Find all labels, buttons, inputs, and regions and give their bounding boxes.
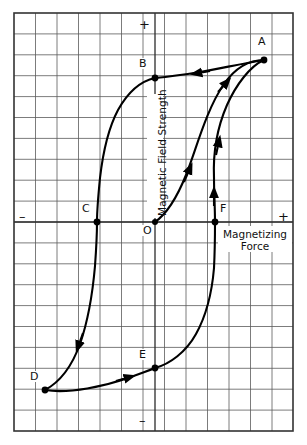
hysteresis-figure: A B C D E F O + – – + Magnetic Field Str… [0, 0, 307, 445]
point-marker-a[interactable] [261, 57, 268, 64]
point-marker-d[interactable] [42, 387, 49, 394]
point-label-e: E [138, 349, 147, 360]
origin-label: O [142, 225, 153, 236]
horizontal-axis-label-line2: Force [219, 240, 291, 252]
point-marker-e[interactable] [152, 365, 159, 372]
horizontal-axis-label: Magnetizing Force [219, 228, 291, 252]
minus-sign-left: – [19, 210, 26, 223]
point-marker-f[interactable] [212, 219, 219, 226]
plus-sign-top: + [139, 18, 150, 31]
point-label-a: A [258, 36, 266, 47]
point-label-d: D [29, 371, 39, 382]
point-marker-o[interactable] [152, 219, 158, 225]
point-marker-c[interactable] [94, 219, 101, 226]
hysteresis-plot-svg [0, 0, 307, 445]
point-label-b: B [138, 58, 148, 69]
horizontal-axis-label-line1: Magnetizing [219, 228, 291, 240]
plus-sign-right: + [278, 210, 289, 223]
vertical-axis-label: Magnetic Field Strength [157, 89, 168, 216]
point-label-c: C [81, 203, 91, 214]
point-marker-b[interactable] [152, 75, 159, 82]
point-label-f: F [219, 203, 227, 214]
minus-sign-bottom: – [139, 414, 146, 427]
